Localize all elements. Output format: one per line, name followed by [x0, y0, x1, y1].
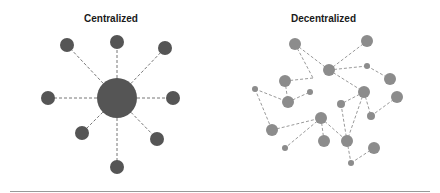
peripheral-node — [166, 91, 180, 105]
decentralized-edge — [329, 70, 364, 92]
network-node — [368, 142, 380, 154]
decentralized-edge — [295, 44, 329, 70]
peripheral-node — [75, 126, 89, 140]
network-node — [341, 135, 353, 147]
network-node — [252, 86, 258, 92]
decentralized-edge — [329, 41, 367, 70]
peripheral-node — [60, 38, 74, 52]
peripheral-node — [41, 91, 55, 105]
network-node — [318, 135, 330, 147]
network-node — [266, 124, 278, 136]
network-node — [348, 160, 354, 166]
network-node — [364, 63, 370, 69]
peripheral-node — [150, 132, 164, 146]
network-node — [367, 112, 375, 120]
peripheral-node — [158, 41, 172, 55]
network-node — [307, 89, 313, 95]
decentralized-edge — [272, 118, 321, 130]
hub-node — [97, 78, 137, 118]
peripheral-node — [110, 35, 124, 49]
network-node — [384, 73, 396, 85]
peripheral-node — [110, 160, 124, 174]
network-diagram — [0, 0, 440, 193]
network-node — [279, 75, 291, 87]
centralized-nodes — [41, 35, 180, 174]
network-node — [323, 64, 335, 76]
network-node — [361, 35, 373, 47]
network-node — [289, 38, 301, 50]
decentralized-nodes — [252, 35, 403, 166]
network-node — [358, 86, 370, 98]
bottom-divider — [10, 191, 430, 192]
network-node — [391, 91, 403, 103]
network-node — [337, 100, 345, 108]
network-node — [315, 112, 327, 124]
network-node — [282, 145, 288, 151]
network-node — [282, 96, 294, 108]
